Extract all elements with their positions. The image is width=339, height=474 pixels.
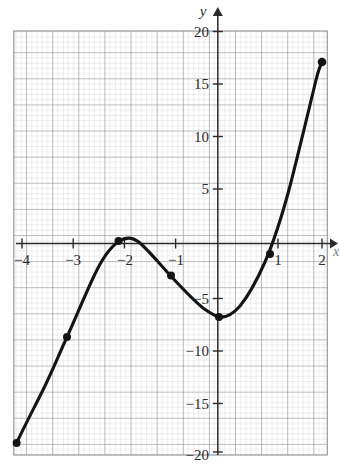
graph-figure: −4 −3 −2 −1 1 2 20 15 10 5 −5 −10 −15 −2… [0,0,339,474]
x-tick-label: −4 [14,252,30,268]
endpoint-left [13,439,21,447]
plotted-point [266,250,274,258]
y-tick-label: −15 [186,396,209,412]
y-tick-label: 10 [194,129,209,145]
plotted-point [167,272,175,280]
y-tick-label: 15 [194,76,209,92]
y-tick-label: −20 [186,447,209,463]
x-axis-label: x [332,244,339,259]
y-axis-label: y [198,3,207,19]
endpoint-right [318,58,327,67]
x-tick-label: 1 [274,252,282,268]
local-maximum-point [115,237,123,245]
x-tick-label: −2 [117,252,133,268]
y-tick-label: −10 [186,343,209,359]
plotted-point [63,333,71,341]
x-tick-label: −1 [168,252,184,268]
y-axis-arrow-icon [213,7,223,16]
x-tick-label: −3 [65,252,81,268]
local-minimum-point [215,313,223,321]
coordinate-plot: −4 −3 −2 −1 1 2 20 15 10 5 −5 −10 −15 −2… [0,0,339,474]
y-tick-label: 20 [194,24,209,40]
y-tick-label: 5 [202,181,210,197]
x-tick-label: 2 [318,252,326,268]
